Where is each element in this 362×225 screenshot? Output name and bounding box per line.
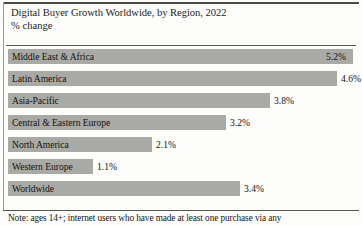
- bar-category-label: North America: [12, 137, 69, 152]
- bar-value-label: 3.2%: [230, 115, 250, 130]
- chart-header: Digital Buyer Growth Worldwide, by Regio…: [11, 6, 351, 32]
- bar-value-label: 4.6%: [341, 71, 361, 86]
- chart-card: Digital Buyer Growth Worldwide, by Regio…: [0, 0, 362, 225]
- bar-row: Western Europe1.1%: [0, 159, 362, 174]
- top-border-rule: [3, 2, 359, 4]
- bar-category-label: Western Europe: [12, 159, 73, 174]
- bar-row: Latin America4.6%: [0, 71, 362, 86]
- bar-value-label: 3.8%: [274, 93, 294, 108]
- bar-row: Worldwide3.4%: [0, 181, 362, 196]
- bar-row: Central & Eastern Europe3.2%: [0, 115, 362, 130]
- bar-row: North America2.1%: [0, 137, 362, 152]
- bar-category-label: Worldwide: [12, 181, 54, 196]
- chart-note: Note: ages 14+; internet users who have …: [8, 213, 360, 224]
- bar-value-label: 5.2%: [326, 49, 346, 64]
- bar-value-label: 2.1%: [156, 137, 176, 152]
- header-divider: [6, 45, 356, 46]
- bar-category-label: Central & Eastern Europe: [12, 115, 110, 130]
- bar-chart-plot: Middle East & Africa5.2%Latin America4.6…: [0, 49, 362, 207]
- chart-subtitle: % change: [11, 19, 351, 32]
- bar-category-label: Asia-Pacific: [12, 93, 59, 108]
- note-divider: [3, 210, 359, 211]
- bar-row: Asia-Pacific3.8%: [0, 93, 362, 108]
- bar-category-label: Latin America: [12, 71, 67, 86]
- bar-value-label: 3.4%: [244, 181, 264, 196]
- bar-category-label: Middle East & Africa: [12, 49, 94, 64]
- bar-value-label: 1.1%: [97, 159, 117, 174]
- bar-row: Middle East & Africa5.2%: [0, 49, 362, 64]
- chart-title: Digital Buyer Growth Worldwide, by Regio…: [11, 6, 351, 19]
